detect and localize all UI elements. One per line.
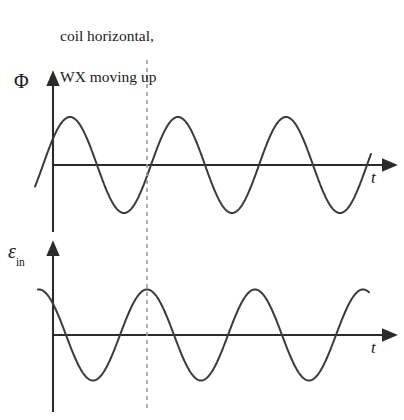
emf-axis-label-subscript: in — [16, 256, 25, 268]
emf-axis-label: εin — [8, 240, 25, 265]
figure-caption: coil horizontal, WX moving up — [60, 6, 310, 108]
bottom-time-axis-label: t — [371, 338, 376, 358]
emf-axis-label-symbol: ε — [8, 240, 16, 262]
bottom-panel — [38, 254, 384, 412]
figure-canvas: coil horizontal, WX moving up Φ εin t t — [0, 0, 404, 420]
top-time-axis-label: t — [371, 168, 376, 188]
caption-line-1: coil horizontal, — [60, 26, 310, 46]
caption-line-2: WX moving up — [60, 67, 310, 87]
flux-axis-label: Φ — [14, 70, 29, 93]
